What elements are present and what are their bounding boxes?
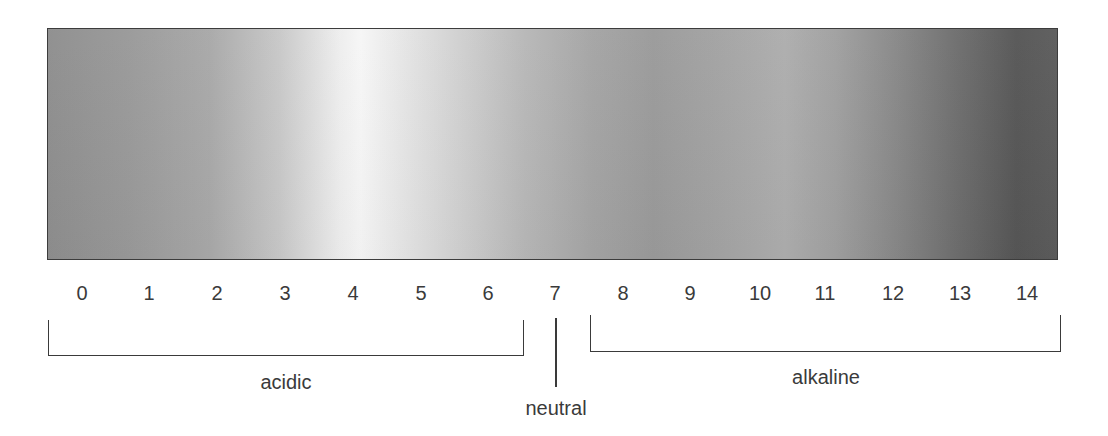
alkaline-bracket [590, 315, 1061, 352]
tick-label-13: 13 [940, 282, 980, 304]
acidic-label: acidic [206, 371, 366, 393]
alkaline-label: alkaline [746, 366, 906, 388]
tick-label-14: 14 [1007, 282, 1047, 304]
tick-label-5: 5 [401, 282, 441, 304]
tick-label-7: 7 [535, 282, 575, 304]
ph-gradient-bar [47, 28, 1058, 260]
tick-label-12: 12 [873, 282, 913, 304]
tick-label-4: 4 [333, 282, 373, 304]
tick-label-6: 6 [468, 282, 508, 304]
tick-label-0: 0 [62, 282, 102, 304]
tick-label-8: 8 [603, 282, 643, 304]
tick-label-2: 2 [197, 282, 237, 304]
tick-label-11: 11 [805, 282, 845, 304]
neutral-marker-line [555, 318, 557, 387]
tick-label-3: 3 [265, 282, 305, 304]
acidic-bracket [48, 320, 524, 356]
tick-label-10: 10 [740, 282, 780, 304]
neutral-label: neutral [476, 397, 636, 419]
tick-label-9: 9 [670, 282, 710, 304]
tick-label-1: 1 [129, 282, 169, 304]
